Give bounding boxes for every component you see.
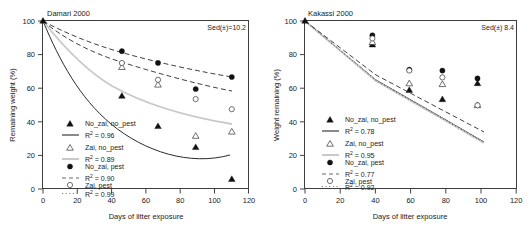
left-legend-label-1: Zai, no_pest [85, 144, 124, 152]
left-legend-r2-2: R2 = 0.90 [85, 173, 115, 182]
left-plot-frame [43, 21, 249, 189]
right-series-zai-no-pest-points [369, 39, 481, 108]
right-ytick-60: 60 [289, 84, 297, 93]
left-legend-label-0: No_zai, no_pest [85, 120, 136, 128]
right-ytick-20: 20 [289, 151, 297, 160]
right-curve-zai-pest [305, 21, 484, 143]
left-series-zai-pest-points [119, 60, 234, 111]
left-ytick-60: 60 [27, 84, 35, 93]
left-curve-no-zai-pest [43, 21, 232, 77]
right-legend-label-0: No_zai, no_pest [345, 116, 396, 124]
left-x-axis-label: Days of litter exposure [109, 212, 184, 221]
right-legend-r2-2: R2 = 0.77 [345, 169, 375, 178]
right-sed-annotation: Sed(±) 8.4 [481, 24, 514, 32]
right-xtick-0: 0 [303, 196, 307, 205]
left-ytick-40: 40 [27, 118, 35, 127]
left-series-no-zai-no-pest-points [40, 18, 235, 182]
right-series-zai-pest-points [370, 36, 480, 108]
left-curve-no-zai-no-pest [43, 21, 230, 159]
left-xtick-60: 60 [142, 196, 150, 205]
left-xtick-100: 100 [208, 196, 221, 205]
left-xtick-80: 80 [176, 196, 184, 205]
left-xtick-40: 40 [107, 196, 115, 205]
left-legend-label-2: No_zai, pest [85, 163, 124, 171]
right-y-axis-label: Weight remaining (%) [272, 69, 281, 141]
right-ytick-40: 40 [289, 118, 297, 127]
right-legend-r2-0: R2 = 0.78 [345, 126, 375, 135]
right-x-axis-ticks [305, 189, 516, 194]
left-sed-annotation: Sed(±)=10.2 [207, 24, 246, 32]
right-x-axis-label: Days of litter exposure [373, 212, 448, 221]
right-xtick-60: 60 [406, 196, 414, 205]
left-xtick-120: 120 [243, 196, 256, 205]
left-y-axis-label: Remaining weight (%) [8, 68, 17, 142]
right-y-axis-ticks [300, 21, 305, 189]
right-curve-no-zai-no-pest [305, 21, 484, 142]
right-legend-r2-1: R2 = 0.95 [345, 150, 375, 159]
left-xtick-0: 0 [41, 196, 45, 205]
right-chart-title: Kakassi 2000 [308, 9, 353, 18]
right-ytick-80: 80 [289, 50, 297, 59]
left-ytick-0: 0 [31, 185, 35, 194]
kakassi-2000-plot: Kakassi 2000 Sed(±) 8.4 100 80 60 40 20 … [266, 0, 531, 235]
right-curve-zai-no-pest [305, 21, 484, 143]
left-ytick-80: 80 [27, 50, 35, 59]
right-legend-label-2: No_zai, pest [345, 159, 384, 167]
left-legend-r2-0: R2 = 0.96 [85, 130, 115, 139]
left-series-no-zai-pest-points [119, 49, 234, 92]
right-ytick-100: 100 [284, 17, 297, 26]
right-xtick-40: 40 [371, 196, 379, 205]
right-xtick-100: 100 [475, 196, 488, 205]
chart-panel-kakassi-2000: Kakassi 2000 Sed(±) 8.4 100 80 60 40 20 … [266, 0, 531, 235]
left-ytick-100: 100 [22, 17, 35, 26]
left-x-axis-ticks [43, 189, 249, 194]
left-legend-label-3: Zai, pest [85, 182, 112, 190]
right-legend-r2-3: R2 = 0.92 [345, 182, 375, 191]
figure-two-panel-litter-decomposition: Damari 2000 Sed(±)=10.2 100 80 60 40 20 … [0, 0, 531, 235]
right-ytick-0: 0 [293, 185, 297, 194]
right-xtick-20: 20 [336, 196, 344, 205]
right-plot-frame [305, 21, 517, 189]
damari-2000-plot: Damari 2000 Sed(±)=10.2 100 80 60 40 20 … [0, 0, 265, 235]
left-series-zai-no-pest-points [119, 64, 236, 139]
right-legend-label-1: Zai, no_pest [345, 140, 384, 148]
left-xtick-20: 20 [73, 196, 81, 205]
left-y-axis-ticks [38, 21, 43, 189]
right-series-no-zai-pest-points [370, 33, 480, 81]
right-xtick-80: 80 [442, 196, 450, 205]
right-xtick-120: 120 [510, 196, 523, 205]
chart-panel-damari-2000: Damari 2000 Sed(±)=10.2 100 80 60 40 20 … [0, 0, 265, 235]
left-legend-r2-1: R2 = 0.89 [85, 154, 115, 163]
left-chart-title: Damari 2000 [47, 9, 90, 18]
right-legend: No_zai, no_pest R2 = 0.78 Zai, no_pest R… [322, 116, 396, 191]
left-ytick-20: 20 [27, 151, 35, 160]
left-curve-zai-no-pest [43, 21, 232, 124]
left-legend: No_zai, no_pest R2 = 0.96 Zai, no_pest R… [62, 120, 136, 190]
left-curve-zai-pest [43, 21, 232, 91]
